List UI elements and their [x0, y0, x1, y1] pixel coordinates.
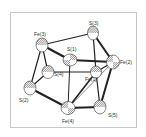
cluster-structure	[0, 0, 146, 137]
label-s2: S(2)	[19, 98, 28, 103]
label-fe2: Fe(2)	[120, 60, 132, 65]
label-fe4: Fe(4)	[62, 119, 74, 124]
label-s4: S(4)	[54, 72, 63, 77]
label-s1: S(1)	[67, 47, 76, 52]
label-s3: S(3)	[89, 21, 98, 26]
label-s5: S(5)	[108, 113, 117, 118]
bond-s1-fe4	[68, 60, 70, 108]
atom-s2	[24, 81, 36, 95]
label-fe1: Fe(1)	[85, 77, 97, 82]
label-fe3: Fe(3)	[34, 32, 46, 37]
atom-s5	[94, 100, 106, 114]
atom-fe3	[36, 38, 48, 52]
atom-fe2	[107, 55, 120, 69]
bond-fe3-s3	[42, 33, 93, 45]
atom-s1	[63, 54, 77, 66]
atom-s4	[42, 66, 54, 79]
atom-s3	[88, 26, 99, 40]
atom-fe4	[61, 102, 75, 115]
